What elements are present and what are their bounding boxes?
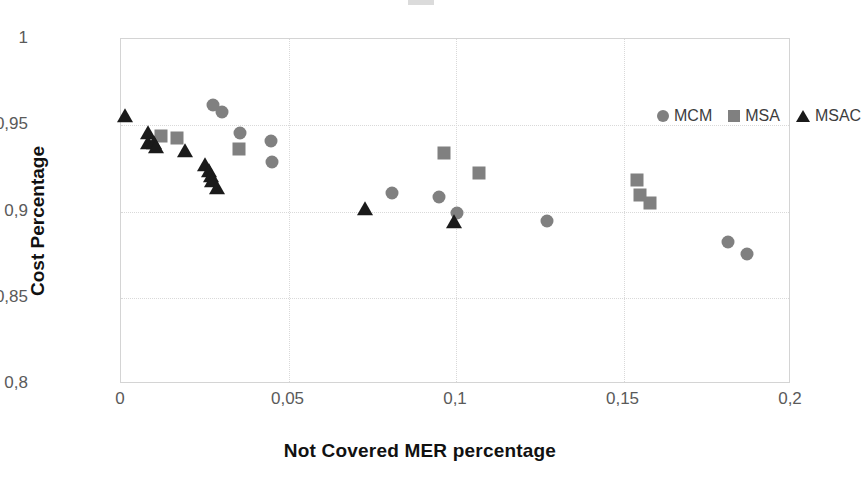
data-point-mcm (386, 186, 399, 199)
y-tick-label: 0,8 (4, 373, 28, 393)
legend-item-mcm[interactable]: MCM (657, 107, 712, 125)
gridline-vertical (624, 39, 625, 382)
gridline-vertical (289, 39, 290, 382)
data-point-msa (630, 174, 643, 187)
legend-label: MSAC (815, 107, 861, 125)
circle-marker-icon (657, 110, 669, 122)
data-point-msac (357, 202, 373, 216)
data-point-mcm (266, 156, 279, 169)
data-point-mcm (233, 127, 246, 140)
data-point-mcm (433, 190, 446, 203)
triangle-marker-icon (796, 110, 810, 122)
gridline-horizontal (121, 298, 789, 299)
y-tick-label: 0,95 (0, 114, 28, 134)
x-tick-label: 0,2 (778, 389, 802, 409)
data-point-msac (177, 143, 193, 157)
data-point-msac (148, 139, 164, 153)
data-point-mcm (215, 106, 228, 119)
data-point-msac (117, 108, 133, 122)
x-tick-label: 0,05 (271, 389, 304, 409)
data-point-mcm (722, 236, 735, 249)
data-point-msa (232, 142, 245, 155)
y-tick-label: 1 (19, 28, 28, 48)
y-axis-title: Cost Percentage (27, 91, 49, 351)
data-point-msac (209, 180, 225, 194)
plot-area: MCMMSAMSAC (120, 38, 790, 383)
x-tick-label: 0,1 (443, 389, 467, 409)
square-marker-icon (728, 110, 740, 122)
legend-item-msa[interactable]: MSA (728, 107, 780, 125)
x-tick-label: 0,15 (606, 389, 639, 409)
y-tick-label: 0,85 (0, 287, 28, 307)
legend-item-msac[interactable]: MSAC (796, 107, 861, 125)
data-point-mcm (541, 214, 554, 227)
data-point-msac (446, 214, 462, 228)
y-tick-label: 0,9 (4, 201, 28, 221)
legend-label: MSA (745, 107, 780, 125)
data-point-msa (472, 167, 485, 180)
chart-legend: MCMMSAMSAC (657, 107, 861, 125)
gridline-horizontal (121, 125, 789, 126)
scan-artifact (408, 0, 434, 5)
x-axis-title: Not Covered MER percentage (0, 440, 840, 462)
data-point-mcm (264, 134, 277, 147)
legend-label: MCM (674, 107, 712, 125)
x-tick-label: 0 (115, 389, 124, 409)
data-point-mcm (741, 248, 754, 261)
data-point-msa (438, 146, 451, 159)
data-point-msa (644, 196, 657, 209)
